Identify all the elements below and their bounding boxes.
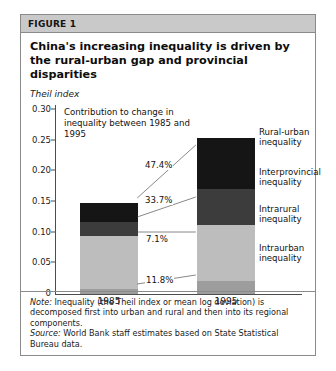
figure-source: Source: World Bank staff estimates based… bbox=[30, 328, 307, 349]
bar-1995-segment-interprovincial bbox=[197, 189, 255, 225]
bar-1995 bbox=[197, 138, 255, 294]
y-tick-005: 0.05 bbox=[21, 257, 51, 267]
pct-label-intrarural: 7.1% bbox=[145, 234, 169, 244]
bar-1985-segment-rural-urban bbox=[80, 203, 138, 222]
y-tick-010: 0.10 bbox=[21, 227, 51, 237]
source-text: World Bank staff estimates based on Stat… bbox=[30, 328, 279, 349]
y-tick-015: 0.15 bbox=[21, 196, 51, 206]
figure-note: Note: Inequality (the Theil index or mea… bbox=[30, 297, 307, 329]
y-tick-025: 0.25 bbox=[21, 135, 51, 145]
legend-item-interprovincial: Interprovincial inequality bbox=[259, 167, 317, 187]
bar-1985-segment-intrarural bbox=[80, 236, 138, 289]
legend-interprovincial-line1: Interprovincial bbox=[259, 167, 317, 177]
figure-footnotes: Note: Inequality (the Theil index or mea… bbox=[21, 291, 315, 356]
pct-label-rural-urban: 47.4% bbox=[144, 160, 173, 170]
figure-title: China's increasing inequality is driven … bbox=[21, 33, 315, 82]
legend-item-intrarural: Intrarural inequality bbox=[259, 204, 317, 224]
figure-card: FIGURE 1 China's increasing inequality i… bbox=[20, 14, 316, 356]
contribution-annotation: Contribution to change in inequality bet… bbox=[64, 107, 199, 140]
pct-label-interprovincial: 33.7% bbox=[144, 195, 173, 205]
y-tick-020: 0.20 bbox=[21, 165, 51, 175]
legend-intrarural-line2: inequality bbox=[259, 214, 317, 224]
legend-intraurban-line2: inequality bbox=[259, 253, 317, 263]
figure-header: FIGURE 1 bbox=[21, 15, 315, 33]
legend-intrarural-line1: Intrarural bbox=[259, 204, 317, 214]
y-axis-tick-labels: 0.30 0.25 0.20 0.15 0.10 0.05 0 bbox=[21, 103, 51, 299]
legend-intraurban-line1: Intraurban bbox=[259, 243, 317, 253]
bar-1985 bbox=[80, 203, 138, 294]
y-tick-030: 0.30 bbox=[21, 104, 51, 114]
legend-interprovincial-line2: inequality bbox=[259, 177, 317, 187]
chart-plot-area: 0.30 0.25 0.20 0.15 0.10 0.05 0 bbox=[21, 103, 315, 299]
note-lead: Note: bbox=[30, 297, 52, 307]
legend-rural-urban-line1: Rural-urban bbox=[259, 127, 317, 137]
legend-rural-urban-line2: inequality bbox=[259, 137, 317, 147]
bar-1995-segment-rural-urban bbox=[197, 138, 255, 190]
chart-legend: Rural-urban inequality Interprovincial i… bbox=[259, 103, 317, 299]
pct-label-intraurban: 11.8% bbox=[145, 275, 174, 285]
y-axis-line bbox=[55, 105, 56, 295]
legend-item-rural-urban: Rural-urban inequality bbox=[259, 127, 317, 147]
bar-1985-segment-interprovincial bbox=[80, 222, 138, 237]
y-axis-unit-caption: Theil index bbox=[21, 82, 315, 99]
note-text: Inequality (the Theil index or mean log … bbox=[30, 297, 288, 328]
source-lead: Source: bbox=[30, 328, 61, 338]
bar-1995-segment-intrarural bbox=[197, 225, 255, 281]
figure-label: FIGURE 1 bbox=[28, 19, 76, 29]
legend-item-intraurban: Intraurban inequality bbox=[259, 243, 317, 263]
